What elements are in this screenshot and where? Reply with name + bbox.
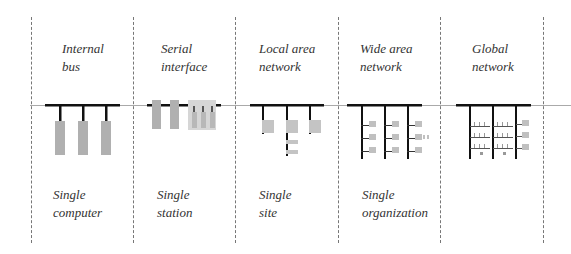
serial-interface-diagram — [147, 100, 221, 130]
network-diagrams — [0, 0, 571, 254]
local-area-network-diagram — [250, 104, 324, 156]
global-network-diagram — [456, 104, 531, 159]
wide-area-network-diagram — [347, 104, 429, 159]
internal-bus-diagram — [45, 104, 120, 155]
